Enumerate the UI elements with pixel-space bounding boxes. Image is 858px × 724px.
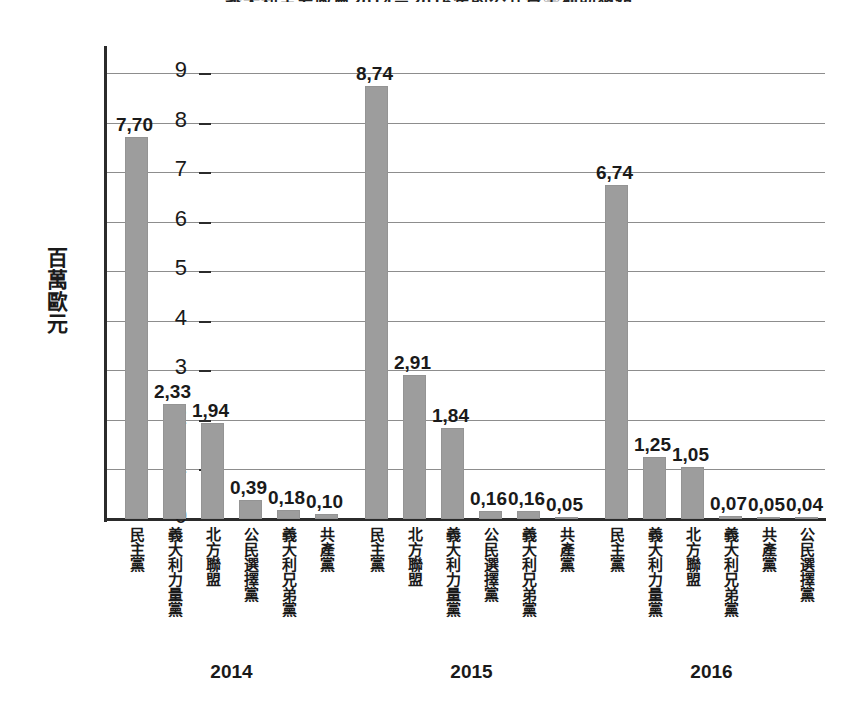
- category-label-char: 義: [718, 527, 744, 542]
- category-label: 公民選擇黨: [794, 527, 820, 602]
- y-tick-label: 4: [175, 307, 187, 329]
- bar: [605, 185, 628, 519]
- category-label-char: 黨: [162, 602, 188, 617]
- category-label: 義大利力量黨: [440, 527, 466, 617]
- category-label-char: 民: [794, 542, 820, 557]
- plot-area: 01234567897,702,331,940,390,180,108,742,…: [107, 73, 825, 519]
- category-label-char: 力: [642, 572, 668, 587]
- category-label-char: 大: [718, 542, 744, 557]
- category-label-char: 黨: [314, 557, 340, 572]
- category-label: 共產黨: [554, 527, 580, 572]
- bar: [365, 86, 388, 519]
- category-label-char: 兄: [276, 572, 302, 587]
- bar-value-label: 0,10: [306, 492, 343, 511]
- category-label-char: 聯: [200, 557, 226, 572]
- category-label-char: 民: [124, 527, 150, 542]
- category-label-char: 方: [200, 542, 226, 557]
- category-label-char: 義: [276, 527, 302, 542]
- gridline: [107, 222, 825, 223]
- bar-value-label: 0,39: [230, 478, 267, 497]
- y-axis-title-char: 元: [38, 313, 76, 335]
- bar: [681, 467, 704, 519]
- category-label-char: 利: [718, 557, 744, 572]
- category-label-char: 大: [440, 542, 466, 557]
- category-label-char: 量: [162, 587, 188, 602]
- y-tick-label: 3: [175, 356, 187, 378]
- y-tick-mark: [199, 73, 211, 75]
- category-label: 共產黨: [314, 527, 340, 572]
- category-label-char: 黨: [604, 557, 630, 572]
- category-label-char: 黨: [478, 587, 504, 602]
- category-label: 民主黨: [364, 527, 390, 572]
- category-label-char: 黨: [276, 602, 302, 617]
- bar-value-label: 1,25: [634, 435, 671, 454]
- y-tick-mark: [199, 172, 211, 174]
- category-label-char: 利: [516, 557, 542, 572]
- category-label-char: 黨: [364, 557, 390, 572]
- y-tick-mark: [199, 321, 211, 323]
- category-label-char: 大: [276, 542, 302, 557]
- y-tick-mark: [199, 271, 211, 273]
- category-label: 公民選擇黨: [238, 527, 264, 602]
- bar-value-label: 1,94: [192, 401, 229, 420]
- category-label-char: 盟: [200, 572, 226, 587]
- category-label: 義大利兄弟黨: [276, 527, 302, 617]
- category-label-char: 黨: [516, 602, 542, 617]
- bar-value-label: 2,33: [154, 382, 191, 401]
- category-label: 公民選擇黨: [478, 527, 504, 602]
- category-label-char: 量: [642, 587, 668, 602]
- category-label-char: 大: [162, 542, 188, 557]
- category-label-char: 民: [478, 542, 504, 557]
- category-label-char: 產: [554, 542, 580, 557]
- category-label-char: 黨: [440, 602, 466, 617]
- category-label: 北方聯盟: [680, 527, 706, 587]
- category-label-char: 方: [402, 542, 428, 557]
- category-label-char: 盟: [402, 572, 428, 587]
- gridline: [107, 73, 825, 74]
- y-axis-title-char: 萬: [38, 269, 76, 291]
- bar: [277, 510, 300, 519]
- category-label-char: 主: [124, 542, 150, 557]
- category-label-char: 擇: [794, 572, 820, 587]
- year-label: 2014: [172, 661, 292, 683]
- bar-value-label: 2,91: [394, 353, 431, 372]
- category-label: 義大利力量黨: [162, 527, 188, 617]
- category-label-char: 產: [756, 542, 782, 557]
- year-label: 2016: [652, 661, 772, 683]
- category-label: 北方聯盟: [200, 527, 226, 587]
- y-axis-title-char: 百: [38, 247, 76, 269]
- y-tick-label: 7: [175, 158, 187, 180]
- category-label-char: 選: [478, 557, 504, 572]
- y-tick-mark: [199, 222, 211, 224]
- bar-value-label: 1,05: [672, 445, 709, 464]
- category-label-char: 義: [516, 527, 542, 542]
- bar: [795, 517, 818, 519]
- category-label-char: 大: [642, 542, 668, 557]
- category-label-char: 主: [604, 542, 630, 557]
- bar: [517, 511, 540, 519]
- category-label-char: 黨: [238, 587, 264, 602]
- bar: [555, 517, 578, 519]
- category-label-char: 主: [364, 542, 390, 557]
- category-label: 義大利力量黨: [642, 527, 668, 617]
- category-label: 共產黨: [756, 527, 782, 572]
- category-label-char: 公: [238, 527, 264, 542]
- bar: [315, 514, 338, 519]
- bar-value-label: 0,16: [508, 489, 545, 508]
- category-label-char: 力: [440, 572, 466, 587]
- bar: [479, 511, 502, 519]
- category-label-char: 民: [604, 527, 630, 542]
- category-label-char: 產: [314, 542, 340, 557]
- bar-value-label: 0,05: [546, 495, 583, 514]
- category-label-char: 黨: [554, 557, 580, 572]
- category-label-char: 北: [402, 527, 428, 542]
- category-label-char: 北: [200, 527, 226, 542]
- y-tick-label: 8: [175, 109, 187, 131]
- bar: [125, 137, 148, 519]
- category-label-char: 公: [794, 527, 820, 542]
- category-label: 民主黨: [604, 527, 630, 572]
- category-label-char: 方: [680, 542, 706, 557]
- bar-value-label: 0,05: [748, 495, 785, 514]
- category-label-char: 力: [162, 572, 188, 587]
- category-label-char: 黨: [756, 557, 782, 572]
